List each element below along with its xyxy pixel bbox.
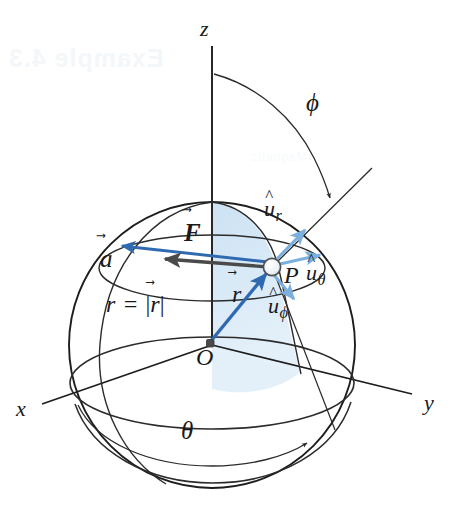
theta-angle-arc [78, 405, 307, 466]
unit-vector-u-r [274, 230, 305, 262]
point-p-marker [263, 258, 280, 275]
x-axis-line [42, 345, 212, 404]
meridian-arc-left [99, 202, 212, 484]
lower-latitude-arc [75, 402, 351, 483]
unit-vector-u-theta [280, 255, 320, 264]
origin-point-marker [207, 340, 215, 348]
spherical-coordinates-figure: Example 4.3 Magnetic [0, 0, 457, 532]
spherical-coordinates-svg [0, 0, 457, 532]
phi-angle-arc [214, 74, 330, 198]
